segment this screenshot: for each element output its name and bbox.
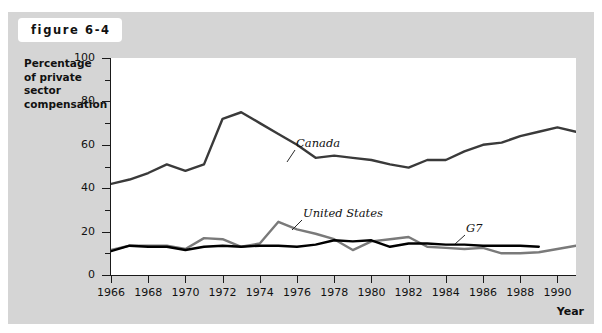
figure-number-label: figure 6-4 xyxy=(31,23,111,37)
x-tick-1976 xyxy=(297,275,298,283)
y-tick-80 xyxy=(102,101,111,102)
y-tick-100 xyxy=(102,58,111,59)
series-label-g7: G7 xyxy=(466,221,483,235)
series-line-canada xyxy=(111,112,576,184)
x-tick-1966 xyxy=(111,275,112,283)
x-tick-1986 xyxy=(483,275,484,283)
y-tick-label-0: 0 xyxy=(35,268,95,281)
series-label-canada: Canada xyxy=(296,136,340,150)
x-tick-1978 xyxy=(334,275,335,283)
y-tick-label-40: 40 xyxy=(35,181,95,194)
y-minor-tick-50 xyxy=(105,167,111,168)
x-axis-title: Year xyxy=(557,305,584,318)
series-label-united-states: United States xyxy=(303,206,383,220)
x-tick-1982 xyxy=(409,275,410,283)
x-tick-1984 xyxy=(446,275,447,283)
y-tick-20 xyxy=(102,232,111,233)
x-tick-1990 xyxy=(557,275,558,283)
figure-number-badge: figure 6-4 xyxy=(18,18,122,42)
x-tick-1972 xyxy=(223,275,224,283)
y-tick-label-20: 20 xyxy=(35,225,95,238)
y-tick-0 xyxy=(102,275,111,276)
chart-lines xyxy=(111,58,576,275)
y-minor-tick-30 xyxy=(105,210,111,211)
x-tick-label-1990: 1990 xyxy=(535,286,579,299)
x-tick-1970 xyxy=(185,275,186,283)
y-minor-tick-10 xyxy=(105,253,111,254)
y-tick-label-60: 60 xyxy=(35,138,95,151)
figure-page: figure 6-4 Percentage of private sector … xyxy=(0,0,602,333)
x-tick-1968 xyxy=(148,275,149,283)
y-tick-60 xyxy=(102,145,111,146)
x-tick-1974 xyxy=(260,275,261,283)
x-tick-1988 xyxy=(520,275,521,283)
x-tick-1980 xyxy=(371,275,372,283)
y-minor-tick-90 xyxy=(105,80,111,81)
y-tick-label-100: 100 xyxy=(35,51,95,64)
plot-area: 020406080100 196619681970197219741976197… xyxy=(110,58,576,276)
plot-inner xyxy=(111,58,576,275)
y-tick-40 xyxy=(102,188,111,189)
y-tick-label-80: 80 xyxy=(35,94,95,107)
y-minor-tick-70 xyxy=(105,123,111,124)
